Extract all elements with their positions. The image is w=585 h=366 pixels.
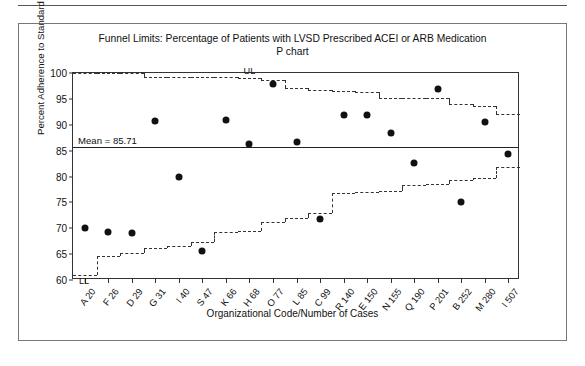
upper-limit-label: UL xyxy=(244,66,256,76)
x-tick-mark xyxy=(320,278,321,283)
data-point xyxy=(152,118,159,125)
y-tick-label: 90 xyxy=(56,119,67,130)
y-tick-label: 80 xyxy=(56,171,67,182)
figure-root: Funnel Limits: Percentage of Patients wi… xyxy=(0,0,585,366)
upper-limit-riser xyxy=(285,80,286,88)
upper-limit-segment xyxy=(449,104,473,105)
x-tick-mark xyxy=(508,278,509,283)
x-tick-label: S 47 xyxy=(195,286,216,308)
y-tick-mark xyxy=(69,254,73,255)
x-tick-mark xyxy=(202,278,203,283)
y-tick-label: 95 xyxy=(56,93,67,104)
y-tick-label: 70 xyxy=(56,223,67,234)
y-tick-label: 100 xyxy=(50,68,67,79)
upper-limit-segment xyxy=(167,77,191,78)
lower-limit-segment xyxy=(191,242,215,243)
x-tick-mark xyxy=(155,278,156,283)
upper-limit-segment xyxy=(285,88,309,89)
upper-limit-segment xyxy=(238,78,262,79)
y-tick-mark xyxy=(69,150,73,151)
x-tick-mark xyxy=(132,278,133,283)
data-point xyxy=(222,117,229,124)
x-tick-mark xyxy=(344,278,345,283)
mean-line xyxy=(73,147,518,148)
upper-limit-riser xyxy=(379,92,380,99)
lower-limit-segment xyxy=(97,256,121,257)
x-tick-mark xyxy=(391,278,392,283)
y-tick-mark xyxy=(69,202,73,203)
y-tick-mark xyxy=(69,98,73,99)
data-point xyxy=(105,228,112,235)
lower-limit-riser xyxy=(214,232,215,242)
upper-limit-segment xyxy=(402,98,426,99)
x-tick-mark xyxy=(438,278,439,283)
lower-limit-segment xyxy=(355,192,379,193)
data-point xyxy=(81,225,88,232)
upper-limit-segment xyxy=(73,73,97,74)
lower-limit-segment xyxy=(120,253,144,254)
x-tick-mark xyxy=(226,278,227,283)
x-axis-label: Organizational Code/Number of Cases xyxy=(19,308,566,319)
data-point xyxy=(340,111,347,118)
data-point xyxy=(246,140,253,147)
data-point xyxy=(387,130,394,137)
x-tick-mark xyxy=(461,278,462,283)
data-point xyxy=(128,230,135,237)
x-tick-mark xyxy=(273,278,274,283)
data-point xyxy=(434,86,441,93)
upper-limit-segment xyxy=(332,91,356,92)
data-point xyxy=(364,111,371,118)
lower-limit-segment xyxy=(144,248,168,249)
y-tick-label: 75 xyxy=(56,197,67,208)
x-tick-mark xyxy=(367,278,368,283)
data-point xyxy=(505,151,512,158)
y-axis-label: Percent Adherence to Standard xyxy=(35,0,46,168)
upper-limit-segment xyxy=(308,90,332,91)
x-tick-label: F 26 xyxy=(101,286,121,308)
lower-limit-segment xyxy=(214,232,238,233)
x-tick-label: C 99 xyxy=(312,286,333,308)
upper-limit-segment xyxy=(473,106,497,107)
lower-limit-segment xyxy=(308,213,332,214)
lower-limit-segment xyxy=(449,180,473,181)
x-tick-mark xyxy=(249,278,250,283)
upper-limit-segment xyxy=(496,114,520,115)
upper-limit-segment xyxy=(120,73,144,74)
lower-limit-segment xyxy=(379,191,403,192)
x-tick-mark xyxy=(297,278,298,283)
upper-limit-segment xyxy=(191,77,215,78)
lower-limit-riser xyxy=(496,167,497,177)
chart-title: Funnel Limits: Percentage of Patients wi… xyxy=(19,32,566,45)
x-tick-mark xyxy=(485,278,486,283)
lower-limit-segment xyxy=(473,178,497,179)
y-tick-mark xyxy=(69,176,73,177)
figure-border-box: Funnel Limits: Percentage of Patients wi… xyxy=(18,23,567,341)
upper-limit-segment xyxy=(426,98,450,99)
data-point xyxy=(199,248,206,255)
x-tick-label: I 40 xyxy=(173,286,191,305)
x-tick-label: H 68 xyxy=(241,286,262,308)
lower-limit-segment xyxy=(261,222,285,223)
x-tick-label: O 77 xyxy=(264,286,285,309)
x-tick-label: G 31 xyxy=(147,286,168,309)
x-tick-mark xyxy=(414,278,415,283)
x-tick-mark xyxy=(179,278,180,283)
y-tick-label: 85 xyxy=(56,145,67,156)
data-point xyxy=(458,199,465,206)
data-point xyxy=(317,215,324,222)
upper-limit-segment xyxy=(97,73,121,74)
lower-limit-segment xyxy=(167,246,191,247)
upper-limit-riser xyxy=(496,106,497,114)
chart-subtitle: P chart xyxy=(19,45,566,58)
data-point xyxy=(269,81,276,88)
upper-limit-segment xyxy=(214,77,238,78)
data-point xyxy=(175,173,182,180)
lower-limit-riser xyxy=(332,193,333,213)
y-tick-mark xyxy=(69,124,73,125)
x-tick-label: I 507 xyxy=(499,286,521,309)
lower-limit-segment xyxy=(402,185,426,186)
lower-limit-label: LL xyxy=(79,276,89,286)
upper-limit-segment xyxy=(144,77,168,78)
lower-limit-riser xyxy=(97,256,98,275)
x-tick-label: D 29 xyxy=(124,286,145,308)
